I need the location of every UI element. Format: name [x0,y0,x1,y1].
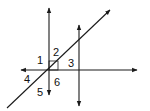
angle-label-1: 1 [37,54,43,66]
transversal-line [7,10,110,108]
geometry-diagram: 123456 [0,0,150,111]
angle-label-6: 6 [54,76,60,88]
angle-label-4: 4 [24,73,30,85]
angle-label-2: 2 [53,46,59,58]
right-angle-marker [49,61,58,70]
angle-label-5: 5 [37,86,43,98]
angle-label-3: 3 [68,57,74,69]
